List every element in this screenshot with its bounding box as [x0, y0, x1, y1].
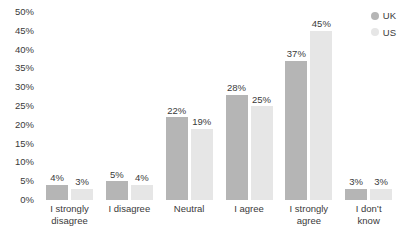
bar-fill [131, 185, 153, 200]
x-axis-category-label: I agree [220, 203, 279, 215]
bar-fill [370, 189, 392, 200]
plot-area: 4%3%I strongly disagree5%4%I disagree22%… [38, 0, 405, 247]
y-axis-tick-label: 20% [15, 120, 34, 130]
bar-fill [71, 189, 93, 200]
legend-swatch-circle-icon [371, 28, 379, 36]
y-axis-tick-label: 10% [15, 158, 34, 168]
bar-fill [285, 61, 307, 200]
x-axis-category-label: I disagree [100, 203, 159, 215]
legend-swatch-circle-icon [371, 12, 379, 20]
bar-fill [251, 106, 273, 200]
bar-fill [345, 189, 367, 200]
y-axis-tick-label: 50% [15, 7, 34, 17]
bar-value-label: 28% [227, 83, 246, 93]
bar-value-label: 45% [312, 19, 331, 29]
x-axis-category-label: I strongly agree [279, 203, 338, 226]
x-axis-category-label: Neutral [160, 203, 219, 215]
bar-value-label: 25% [252, 95, 271, 105]
y-axis-tick-label: 0% [20, 195, 34, 205]
bar-value-label: 4% [135, 173, 149, 183]
bar-fill [46, 185, 68, 200]
bar-value-label: 3% [374, 177, 388, 187]
y-axis-tick-label: 35% [15, 64, 34, 74]
bar-group: 28%25% [226, 0, 273, 200]
y-axis: 50%45%40%35%30%25%20%15%10%5%0% [0, 0, 34, 247]
grouped-bar-chart: 50%45%40%35%30%25%20%15%10%5%0% 4%3%I st… [0, 0, 405, 247]
bar-group: 22%19% [166, 0, 213, 200]
legend-item-uk[interactable]: UK [371, 11, 396, 21]
bar-group: 4%3% [46, 0, 93, 200]
y-axis-tick-label: 25% [15, 101, 34, 111]
legend-label: UK [383, 11, 396, 21]
bar-fill [106, 181, 128, 200]
bar-value-label: 3% [75, 177, 89, 187]
bar-fill [191, 129, 213, 200]
bar-group: 37%45% [285, 0, 332, 200]
x-axis-category-label: I don’t know [339, 203, 398, 226]
bar-group: 5%4% [106, 0, 153, 200]
bar-value-label: 3% [349, 177, 363, 187]
y-axis-tick-label: 30% [15, 82, 34, 92]
chart-legend: UKUS [371, 11, 396, 44]
x-axis-category-label: I strongly disagree [40, 203, 99, 226]
y-axis-tick-label: 5% [20, 176, 34, 186]
bar-value-label: 4% [50, 173, 64, 183]
y-axis-tick-label: 40% [15, 45, 34, 55]
bar-fill [310, 31, 332, 200]
bar-value-label: 5% [110, 170, 124, 180]
legend-item-us[interactable]: US [371, 28, 396, 38]
y-axis-tick-label: 15% [15, 139, 34, 149]
legend-label: US [383, 28, 396, 38]
bar-fill [166, 117, 188, 200]
bar-value-label: 19% [192, 117, 211, 127]
bar-value-label: 37% [287, 49, 306, 59]
bar-value-label: 22% [167, 106, 186, 116]
y-axis-tick-label: 45% [15, 26, 34, 36]
bar-fill [226, 95, 248, 200]
